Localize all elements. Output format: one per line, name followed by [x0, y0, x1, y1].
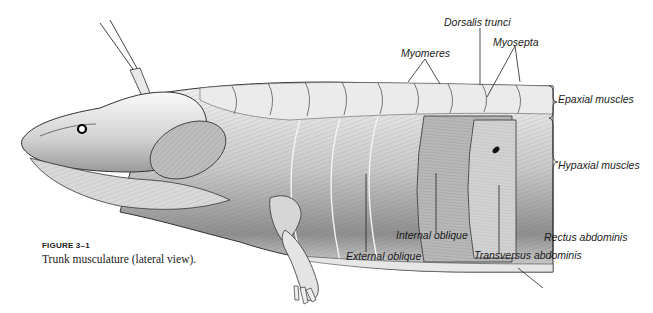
label-myosepta: Myosepta: [493, 37, 539, 48]
label-external-oblique: External oblique: [346, 251, 421, 262]
figure-caption: Trunk musculature (lateral view).: [42, 253, 196, 265]
eye: [78, 125, 86, 133]
figure-number: FIGURE 3–1: [42, 241, 90, 250]
label-hypaxial-muscles: Hypaxial muscles: [558, 160, 640, 171]
label-rectus-abdominis: Rectus abdominis: [544, 232, 627, 243]
label-dorsalis-trunci: Dorsalis trunci: [444, 17, 511, 28]
label-epaxial-muscles: Epaxial muscles: [558, 94, 634, 105]
label-internal-oblique: Internal oblique: [396, 230, 468, 241]
label-myomeres: Myomeres: [401, 48, 450, 59]
anatomical-figure: Myomeres Dorsalis trunci Myosepta Epaxia…: [0, 0, 653, 313]
trunk-illustration: [0, 0, 653, 313]
head: [22, 92, 236, 209]
label-transversus-abdominis: Transversus abdominis: [474, 250, 582, 261]
